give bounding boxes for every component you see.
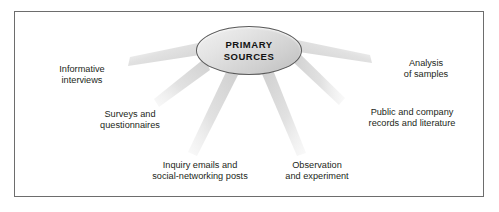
spoke-label-line-2: questionnaires bbox=[74, 120, 186, 131]
ray-observation-experiment bbox=[262, 70, 306, 156]
spoke-label-line-1: Surveys and bbox=[74, 109, 186, 120]
spoke-label-analysis-of-samples: Analysis of samples bbox=[378, 58, 474, 80]
spoke-label-informative-interviews: Informative interviews bbox=[34, 64, 130, 86]
spoke-label-line-1: Public and company bbox=[340, 107, 484, 118]
spoke-label-line-2: records and literature bbox=[340, 118, 484, 129]
primary-sources-diagram: PRIMARY SOURCES Informative interviews S… bbox=[0, 0, 499, 212]
center-node-line-1: PRIMARY bbox=[226, 39, 273, 51]
spoke-label-line-2: of samples bbox=[378, 69, 474, 80]
center-node-primary-sources: PRIMARY SOURCES bbox=[196, 26, 302, 75]
spoke-label-line-2: social-networking posts bbox=[130, 171, 270, 182]
spoke-label-line-1: Observation bbox=[262, 160, 372, 171]
spoke-label-line-1: Informative bbox=[34, 64, 130, 75]
spoke-label-line-1: Analysis bbox=[378, 58, 474, 69]
spoke-label-inquiry-emails: Inquiry emails and social-networking pos… bbox=[130, 160, 270, 182]
ray-analysis-of-samples bbox=[297, 40, 372, 63]
ray-informative-interviews bbox=[128, 42, 203, 66]
spoke-label-line-2: interviews bbox=[34, 75, 130, 86]
spoke-label-line-1: Inquiry emails and bbox=[130, 160, 270, 171]
spoke-label-line-2: and experiment bbox=[262, 171, 372, 182]
spoke-label-public-company-records: Public and company records and literatur… bbox=[340, 107, 484, 129]
spoke-label-surveys-questionnaires: Surveys and questionnaires bbox=[74, 109, 186, 131]
spoke-label-observation-experiment: Observation and experiment bbox=[262, 160, 372, 182]
ray-inquiry-emails bbox=[188, 72, 238, 156]
ray-surveys-questionnaires bbox=[154, 58, 210, 107]
center-node-line-2: SOURCES bbox=[224, 51, 274, 63]
